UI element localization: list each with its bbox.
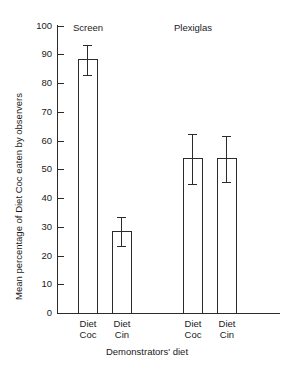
bar-plexiglas-diet-coc <box>183 158 203 314</box>
y-tick-80 <box>58 83 64 84</box>
y-tick-label-40: 40 <box>14 193 52 203</box>
bar-plexiglas-diet-cin <box>217 158 237 314</box>
y-tick-70 <box>58 112 64 113</box>
y-tick-90 <box>58 54 64 55</box>
x-category-label-4-line1: Diet <box>202 318 252 329</box>
x-category-label-4-line2: Cin <box>202 329 252 340</box>
x-category-label-2: Diet Cin <box>97 318 147 340</box>
x-category-label-2-line2: Cin <box>97 329 147 340</box>
y-tick-20 <box>58 256 64 257</box>
bar-chart-figure: Mean percentage of Diet Coc eaten by obs… <box>0 0 296 385</box>
x-category-label-4: Diet Cin <box>202 318 252 340</box>
y-tick-label-50: 50 <box>14 164 52 174</box>
error-bar-cap-upper-1 <box>83 45 92 46</box>
y-tick-label-60: 60 <box>14 136 52 146</box>
x-category-label-2-line1: Diet <box>97 318 147 329</box>
y-tick-label-20: 20 <box>14 251 52 261</box>
y-tick-label-0: 0 <box>14 308 52 318</box>
y-tick-label-80: 80 <box>14 78 52 88</box>
y-tick-40 <box>58 198 64 199</box>
x-axis-label: Demonstrators' diet <box>57 346 237 357</box>
y-tick-label-70: 70 <box>14 107 52 117</box>
y-tick-30 <box>58 227 64 228</box>
group-label-plexiglas: Plexiglas <box>153 22 233 33</box>
y-tick-label-90: 90 <box>14 49 52 59</box>
y-tick-label-10: 10 <box>14 279 52 289</box>
y-tick-50 <box>58 169 64 170</box>
bar-screen-diet-cin <box>112 231 132 314</box>
y-tick-60 <box>58 141 64 142</box>
error-bar-cap-upper-3 <box>188 134 197 135</box>
y-tick-10 <box>58 284 64 285</box>
y-tick-label-100: 100 <box>14 21 52 31</box>
bar-screen-diet-coc <box>78 59 98 314</box>
y-tick-label-30: 30 <box>14 222 52 232</box>
group-label-screen: Screen <box>48 22 128 33</box>
error-bar-cap-upper-4 <box>222 136 231 137</box>
error-bar-cap-upper-2 <box>117 217 126 218</box>
